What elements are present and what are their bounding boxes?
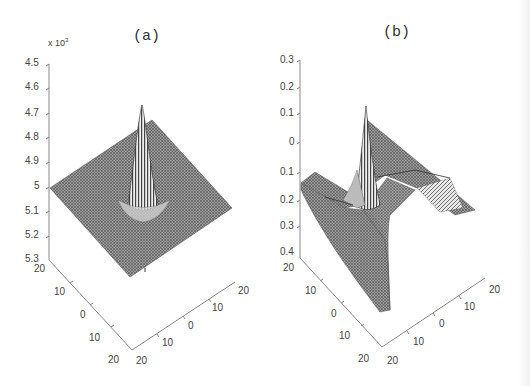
z-tick-label: 4.6 xyxy=(25,81,39,92)
z-tick-label: 0.3 xyxy=(280,54,294,65)
surface-plot-a xyxy=(0,0,265,386)
z-tick-label: 0.2 xyxy=(280,81,294,92)
y-tick-label: 0 xyxy=(331,308,337,319)
page-edge-shadow xyxy=(518,0,530,386)
z-tick-label: 0.2 xyxy=(280,194,294,205)
y-tick-label: 20 xyxy=(283,262,294,273)
x-tick-label: 10 xyxy=(413,336,424,347)
y-tick-label: 0 xyxy=(80,309,86,320)
z-tick-label: 0.3 xyxy=(280,220,294,231)
chart-panel-b: (b) xyxy=(265,0,530,386)
z-tick-label: 4.9 xyxy=(25,155,39,166)
z-tick-label: 0.1 xyxy=(280,107,294,118)
x-tick-label: 10 xyxy=(162,337,173,348)
x-tick-label: 10 xyxy=(464,301,475,312)
x-tick-label: 10 xyxy=(212,302,223,313)
z-tick-label: 0 xyxy=(289,136,295,147)
z-tick-label: 4.8 xyxy=(25,131,39,142)
y-tick-label: 20 xyxy=(358,353,369,364)
z-tick-label: 5.2 xyxy=(25,229,39,240)
z-tick-label: 0.1 xyxy=(280,166,294,177)
surface-plot-b xyxy=(265,0,530,386)
x-tick-label: 20 xyxy=(136,355,147,366)
z-tick-label: 4.5 xyxy=(25,57,39,68)
z-tick-label: 5 xyxy=(34,180,40,191)
x-tick-label: 0 xyxy=(439,318,445,329)
y-tick-label: 20 xyxy=(108,354,119,365)
x-tick-label: 20 xyxy=(238,285,249,296)
z-tick-label: 4.7 xyxy=(25,107,39,118)
y-tick-label: 10 xyxy=(54,286,65,297)
z-tick-label: 5.1 xyxy=(25,205,39,216)
x-tick-label: 20 xyxy=(387,355,398,366)
x-tick-label: 20 xyxy=(489,284,500,295)
z-tick-label: 0.4 xyxy=(280,246,294,257)
chart-panel-a: (a) x 103 xyxy=(0,0,265,386)
y-tick-label: 10 xyxy=(339,330,350,341)
y-tick-label: 20 xyxy=(34,263,45,274)
y-tick-label: 10 xyxy=(89,332,100,343)
x-tick-label: 0 xyxy=(188,320,194,331)
y-tick-label: 10 xyxy=(305,285,316,296)
